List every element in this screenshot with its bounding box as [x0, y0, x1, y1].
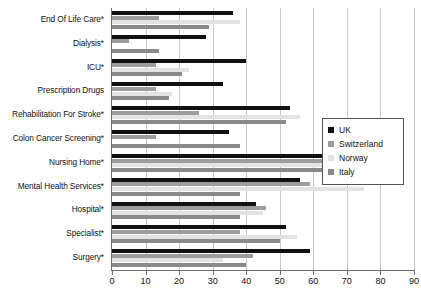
- gridline: [414, 8, 415, 270]
- category-label: Dialysis*: [0, 39, 104, 48]
- x-tick-label: 60: [300, 276, 326, 286]
- category-label: Surgery*: [0, 253, 104, 262]
- legend-swatch-icon: [328, 155, 334, 161]
- category-label: ICU*: [0, 63, 104, 72]
- legend-item-switzerland[interactable]: Switzerland: [328, 137, 398, 151]
- bar-chart: End Of Life Care*Dialysis*ICU*Prescripti…: [0, 0, 421, 298]
- bar-group: [112, 11, 414, 29]
- x-tick: [414, 270, 415, 275]
- bar: [112, 187, 364, 191]
- bar: [112, 235, 297, 239]
- bar: [112, 20, 240, 24]
- x-tick-label: 30: [200, 276, 226, 286]
- bar: [112, 96, 169, 100]
- legend-swatch-icon: [328, 127, 334, 133]
- legend-label: Italy: [339, 167, 355, 177]
- x-tick-label: 40: [233, 276, 259, 286]
- bar: [112, 154, 354, 158]
- legend-label: Norway: [339, 153, 368, 163]
- x-tick-label: 10: [133, 276, 159, 286]
- x-tick: [313, 270, 314, 275]
- bar: [112, 35, 206, 39]
- bar: [112, 144, 240, 148]
- x-tick-label: 80: [367, 276, 393, 286]
- x-tick: [280, 270, 281, 275]
- x-tick-label: 70: [334, 276, 360, 286]
- bar-group: [112, 202, 414, 220]
- bar: [112, 230, 240, 234]
- bar: [112, 39, 129, 43]
- x-tick: [112, 270, 113, 275]
- bar: [112, 111, 199, 115]
- category-label: Hospital*: [0, 205, 104, 214]
- category-label: Mental Health Services*: [0, 182, 104, 191]
- category-axis-labels: End Of Life Care*Dialysis*ICU*Prescripti…: [0, 8, 108, 270]
- category-label: Nursing Home*: [0, 158, 104, 167]
- legend-item-norway[interactable]: Norway: [328, 151, 398, 165]
- bar: [112, 106, 290, 110]
- bar: [112, 254, 253, 258]
- x-tick: [146, 270, 147, 275]
- legend-item-uk[interactable]: UK: [328, 123, 398, 137]
- bar: [112, 92, 172, 96]
- bar: [112, 239, 280, 243]
- x-tick-label: 20: [166, 276, 192, 286]
- bar: [112, 130, 229, 134]
- x-tick: [213, 270, 214, 275]
- bar: [112, 63, 156, 67]
- bar: [112, 178, 300, 182]
- bar: [112, 211, 263, 215]
- x-tick-label: 90: [401, 276, 421, 286]
- x-tick: [246, 270, 247, 275]
- bar: [112, 120, 286, 124]
- bar: [112, 87, 156, 91]
- bar: [112, 11, 233, 15]
- bar: [112, 249, 310, 253]
- legend-label: UK: [339, 125, 351, 135]
- bar: [112, 206, 266, 210]
- bar-group: [112, 35, 414, 53]
- bar: [112, 68, 189, 72]
- bar: [112, 59, 246, 63]
- bar-group: [112, 225, 414, 243]
- x-tick: [179, 270, 180, 275]
- legend-label: Switzerland: [339, 139, 383, 149]
- bar: [112, 159, 340, 163]
- x-tick: [347, 270, 348, 275]
- bar: [112, 258, 223, 262]
- category-label: Specialist*: [0, 229, 104, 238]
- legend-item-italy[interactable]: Italy: [328, 165, 398, 179]
- bar: [112, 168, 337, 172]
- category-label: Colon Cancer Screening*: [0, 134, 104, 143]
- bar: [112, 202, 256, 206]
- x-tick-label: 0: [99, 276, 125, 286]
- bar-group: [112, 82, 414, 100]
- bar: [112, 135, 156, 139]
- bar-group: [112, 59, 414, 77]
- category-label: End Of Life Care*: [0, 15, 104, 24]
- bar-group: [112, 249, 414, 267]
- bar: [112, 215, 240, 219]
- legend-swatch-icon: [328, 141, 334, 147]
- bar: [112, 16, 159, 20]
- bar: [112, 82, 223, 86]
- legend-swatch-icon: [328, 169, 334, 175]
- bar: [112, 263, 246, 267]
- x-tick-label: 50: [267, 276, 293, 286]
- bar: [112, 192, 240, 196]
- bar: [112, 225, 286, 229]
- bar: [112, 49, 159, 53]
- category-label: Rehabilitation For Stroke*: [0, 110, 104, 119]
- x-axis-tick-labels: 0102030405060708090: [112, 276, 415, 290]
- bar: [112, 115, 300, 119]
- x-tick: [380, 270, 381, 275]
- bar: [112, 25, 209, 29]
- bar: [112, 182, 310, 186]
- chart-legend: UKSwitzerlandNorwayItaly: [322, 118, 404, 185]
- bar: [112, 72, 182, 76]
- category-label: Prescription Drugs: [0, 86, 104, 95]
